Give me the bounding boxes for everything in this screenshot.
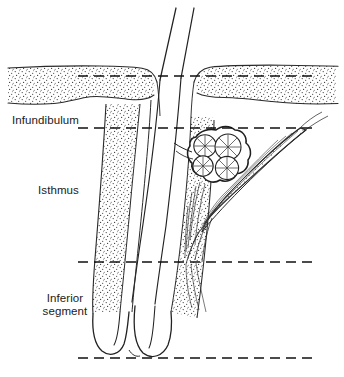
- epidermis-layer: [8, 65, 338, 116]
- sebaceous-gland: [174, 126, 250, 182]
- label-infundibulum: Infundibulum: [12, 114, 79, 127]
- hair-bulb: [93, 306, 172, 356]
- label-inferior-segment: Inferiorsegment: [36, 292, 94, 318]
- hair-follicle-figure: Infundibulum Isthmus Inferiorsegment: [0, 0, 344, 377]
- label-inferior-segment-line1: Inferior: [36, 292, 94, 305]
- outer-root-sheath: [93, 100, 215, 318]
- label-isthmus: Isthmus: [38, 184, 79, 197]
- hair-shaft: [160, 8, 194, 80]
- label-inferior-segment-line2: segment: [36, 305, 94, 318]
